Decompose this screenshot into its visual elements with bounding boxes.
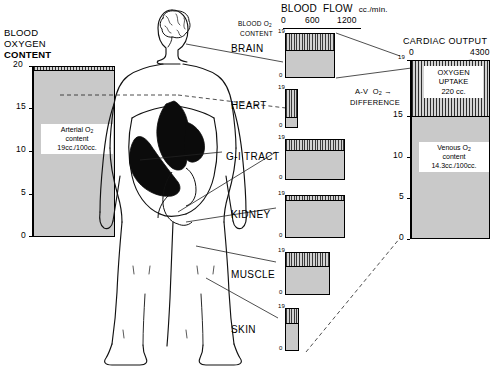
oxygen-uptake-callout: OXYGEN UPTAKE 220 cc. (424, 66, 483, 98)
blood-flow-title: BLOOD FLOW cc./min. (281, 4, 388, 15)
organ-label-muscle: MUSCLE (231, 270, 275, 281)
organ-bar-skin (285, 308, 299, 351)
cardiac-scale-right: 4300 (470, 48, 490, 57)
flow-tick-1200: 1200 (337, 16, 357, 25)
kidney-extraction-hatch (286, 196, 344, 201)
organ-bar-gi-tract (285, 139, 345, 180)
blood-o2-content-label-2: CONTENT (240, 30, 273, 37)
uptake-line2: UPTAKE (427, 77, 480, 86)
right-tick-label-5: 5 (399, 192, 404, 201)
organ-label-brain: BRAIN (231, 44, 264, 55)
kidney-bottom-tick: 0 (279, 232, 283, 238)
organ-label-gi-tract: G-I TRACT (226, 152, 279, 163)
flow-tick-0: 0 (281, 16, 286, 25)
physiology-diagram: BLOOD OXYGEN CONTENT 20 15 10 5 0 Arteri… (0, 0, 503, 373)
organ-bar-muscle (285, 252, 330, 295)
gi-bottom-tick: 0 (279, 174, 283, 180)
organ-label-skin: SKIN (231, 325, 256, 336)
heart-extraction-hatch (286, 90, 297, 118)
skin-bottom-tick: 0 (279, 345, 283, 351)
right-tick-label-0: 0 (399, 233, 404, 242)
venous-content-callout: Venous O2 content 14.3cc./100cc. (419, 142, 489, 172)
cardiac-scale-left: 0 (409, 48, 414, 57)
right-tick-label-10: 10 (393, 151, 403, 160)
organ-bar-heart (285, 89, 298, 128)
venous-line3: 14.3cc./100cc. (422, 162, 486, 171)
cardiac-output-title: CARDIAC OUTPUT (403, 37, 487, 47)
organ-bar-brain (285, 33, 335, 78)
right-tick-label-15: 15 (393, 110, 403, 119)
skin-extraction-hatch (286, 309, 298, 324)
venous-line1: Venous O2 (422, 144, 486, 153)
brain-extraction-hatch (286, 34, 334, 51)
muscle-extraction-hatch (286, 253, 329, 267)
right-tick-label-19: 19 (398, 54, 405, 60)
venous-line2: content (422, 153, 486, 162)
right-tick-0 (407, 239, 410, 240)
brain-bottom-tick: 0 (279, 72, 283, 78)
organ-bar-kidney (285, 195, 345, 238)
uptake-line1: OXYGEN (427, 68, 480, 77)
uptake-line3: 220 cc. (427, 87, 480, 96)
organ-label-heart: HEART (231, 101, 267, 112)
av-difference-label-2: DIFFERENCE (350, 99, 400, 107)
right-tick-10 (407, 157, 410, 158)
gi-extraction-hatch (286, 140, 344, 151)
right-tick-15 (407, 116, 410, 117)
flow-tick-600: 600 (305, 16, 320, 25)
flow-axis-line (283, 28, 361, 29)
organ-label-kidney: KIDNEY (231, 210, 271, 221)
blood-o2-content-label-1: BLOOD O2 (238, 20, 272, 28)
right-tick-5 (407, 198, 410, 199)
muscle-bottom-tick: 0 (279, 289, 283, 295)
av-difference-label-1: A-V O2 → (355, 88, 392, 97)
right-tick-19 (407, 60, 410, 61)
heart-bottom-tick: 0 (279, 122, 283, 128)
